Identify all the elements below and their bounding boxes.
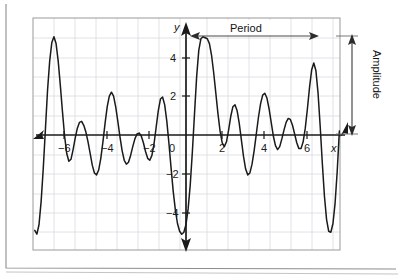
x-axis-name: x xyxy=(330,142,337,154)
ytick-label-4: 4 xyxy=(170,52,176,64)
xtick-label-minus-6: −6 xyxy=(58,142,71,154)
figure-svg: −6 −4 −2 0 2 4 6 4 2 −2 −4 y x Period xyxy=(0,0,402,280)
xtick-label-6: 6 xyxy=(304,142,310,154)
period-label: Period xyxy=(230,22,262,34)
ytick-label-2: 2 xyxy=(170,90,176,102)
xtick-label-4: 4 xyxy=(261,142,267,154)
waveform-figure: −6 −4 −2 0 2 4 6 4 2 −2 −4 y x Period xyxy=(0,0,402,280)
amplitude-label: Amplitude xyxy=(371,50,383,99)
